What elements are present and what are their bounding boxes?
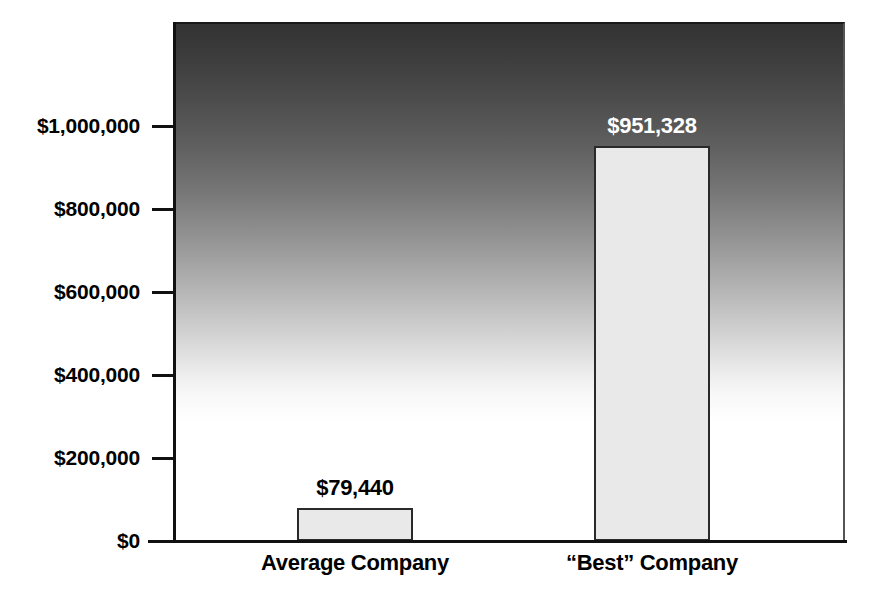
- y-tick-mark: [152, 457, 175, 460]
- bar-average-company[interactable]: [297, 508, 413, 541]
- y-tick-mark: [152, 125, 175, 128]
- y-axis-tick-label: $800,000: [54, 197, 140, 221]
- y-tick-mark: [152, 291, 175, 294]
- bar-value-label-average-company: $79,440: [245, 475, 465, 501]
- y-axis-tick-label: $1,000,000: [37, 114, 140, 138]
- y-tick-mark: [152, 540, 175, 543]
- bar-best-company[interactable]: [594, 146, 710, 541]
- x-axis-category-label-best-company: “Best” Company: [512, 550, 792, 576]
- y-axis-tick-label: $600,000: [54, 280, 140, 304]
- x-axis-category-label-average-company: Average Company: [215, 550, 495, 576]
- y-axis-tick-label: $200,000: [54, 446, 140, 470]
- y-axis-line: [173, 22, 176, 543]
- plot-area: [175, 22, 845, 541]
- x-axis-line: [148, 540, 847, 543]
- y-tick-mark: [152, 374, 175, 377]
- bar-value-label-best-company: $951,328: [542, 113, 762, 139]
- y-tick-mark: [152, 208, 175, 211]
- y-axis-tick-label: $400,000: [54, 363, 140, 387]
- bar-chart: $0 $200,000 $400,000 $600,000 $800,000 $…: [0, 0, 869, 597]
- y-axis-tick-label: $0: [117, 529, 140, 553]
